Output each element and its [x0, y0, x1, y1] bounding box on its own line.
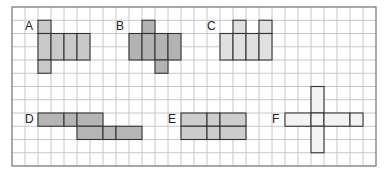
shape-label-c: C	[207, 20, 216, 32]
shape-c-cell	[246, 34, 259, 61]
shape-f-cell	[324, 113, 350, 126]
shape-e-cell	[220, 126, 246, 139]
shape-label-e: E	[168, 113, 176, 125]
shape-f-cell	[350, 113, 363, 126]
shape-f-cell	[311, 113, 324, 126]
shape-label-a: A	[25, 20, 33, 32]
shape-label-f: F	[272, 113, 279, 125]
shape-d-cell	[116, 126, 142, 139]
shape-b-cell	[155, 60, 168, 73]
shape-b-cell	[142, 34, 155, 61]
shape-a-cell	[38, 20, 51, 33]
shape-d-cell	[38, 113, 64, 126]
shape-b-cell	[168, 34, 181, 61]
shape-e-cell	[207, 126, 220, 139]
shape-c-cell	[259, 34, 272, 61]
shape-c-cell	[233, 34, 246, 61]
shape-e-cell	[207, 113, 220, 126]
shape-b-cell	[155, 34, 168, 61]
shape-c-cell	[233, 20, 246, 33]
shape-a-cell	[38, 34, 51, 61]
shape-d-cell	[64, 113, 77, 126]
shape-c-cell	[259, 20, 272, 33]
shape-a-cell	[64, 34, 77, 61]
shape-e-cell	[220, 113, 246, 126]
shape-d-cell	[77, 113, 103, 126]
shape-b-cell	[142, 20, 155, 33]
shape-b-cell	[129, 34, 142, 61]
grid-diagram	[0, 0, 384, 176]
shape-label-b: B	[116, 20, 124, 32]
shape-f-cell	[311, 87, 324, 114]
shape-label-d: D	[25, 113, 34, 125]
shape-e-cell	[181, 113, 207, 126]
shape-a-cell	[38, 60, 51, 73]
shape-e-cell	[181, 126, 207, 139]
shape-f-cell	[311, 126, 324, 153]
shape-d-cell	[77, 126, 103, 139]
shape-c-cell	[220, 34, 233, 61]
shape-f-cell	[285, 113, 311, 126]
shape-a-cell	[77, 34, 90, 61]
shape-a-cell	[51, 34, 64, 61]
shape-d-cell	[103, 126, 116, 139]
